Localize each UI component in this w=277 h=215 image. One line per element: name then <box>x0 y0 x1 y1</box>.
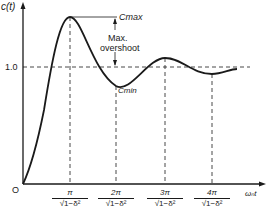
x-axis-arrow-icon <box>259 182 266 187</box>
cmin-label: Cmin <box>118 87 137 95</box>
x-tick-1: π √1−δ² <box>52 189 88 208</box>
x-axis-label: ωₙt <box>245 190 256 198</box>
y-axis-arrow-icon <box>21 2 26 9</box>
origin-label: O <box>12 186 19 195</box>
x-tick-3: 3π √1−δ² <box>147 189 183 208</box>
step-response-plot <box>0 0 277 215</box>
overshoot-label-line2: overshoot <box>100 44 140 53</box>
y-axis-label: c(t) <box>1 2 15 12</box>
cmax-label: Cmax <box>119 13 143 22</box>
overshoot-arrow-up-icon <box>113 18 117 24</box>
x-tick-4: 4π √1−δ² <box>194 189 230 208</box>
x-tick-2: 2π √1−δ² <box>98 189 134 208</box>
reference-level-label: 1.0 <box>5 63 18 72</box>
overshoot-arrow-down-icon <box>113 60 117 66</box>
overshoot-label-line1: Max. <box>108 34 128 43</box>
